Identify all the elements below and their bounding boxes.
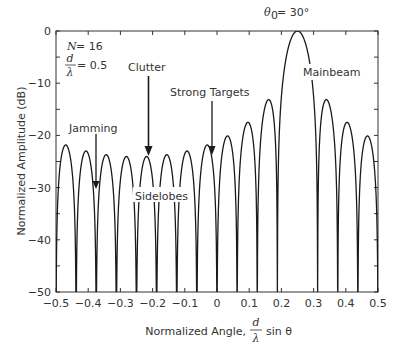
svg-text:d: d: [66, 52, 73, 65]
y-tick-label: −10: [28, 77, 51, 90]
array-params-annotation: N = 16 d λ = 0.5: [65, 40, 107, 79]
x-tick-label: 0.4: [337, 297, 355, 310]
mainbeam-annotation: Mainbeam: [300, 64, 360, 80]
y-axis-label: Normalized Amplitude (dB): [15, 87, 28, 236]
x-axis-label: Normalized Angle, d λ sin θ: [145, 316, 292, 345]
x-tick-label: 0: [214, 297, 221, 310]
svg-text:Mainbeam: Mainbeam: [303, 66, 360, 79]
x-tick-label: −0.3: [107, 297, 134, 310]
svg-text:Normalized Angle,: Normalized Angle,: [145, 325, 246, 338]
y-tick-label: 0: [44, 25, 51, 38]
x-tick-label: 0.3: [305, 297, 323, 310]
svg-text:= 0.5: = 0.5: [77, 59, 107, 72]
svg-text:sin θ: sin θ: [266, 325, 292, 338]
svg-text:Strong Targets: Strong Targets: [170, 86, 250, 99]
arrow-down-icon: [209, 146, 216, 155]
clutter-annotation: Clutter: [128, 61, 166, 156]
y-tick-label: −50: [28, 286, 51, 299]
svg-text:λ: λ: [252, 332, 260, 345]
svg-text:Sidelobes: Sidelobes: [135, 190, 188, 203]
x-tick-label: −0.4: [75, 297, 102, 310]
y-tick-label: −40: [28, 234, 51, 247]
array-pattern-chart: −0.5−0.4−0.3−0.2−0.100.10.20.30.40.5 0−1…: [0, 0, 404, 361]
y-tick-label: −20: [28, 129, 51, 142]
steer-angle-annotation: θ 0 = 30°: [264, 6, 309, 22]
svg-text:= 30°: = 30°: [277, 6, 309, 19]
svg-text:θ: θ: [264, 6, 271, 19]
svg-text:= 16: = 16: [76, 40, 103, 53]
arrow-down-icon: [145, 146, 153, 156]
x-tick-label: 0.5: [369, 297, 387, 310]
strong-targets-annotation: Strong Targets: [170, 86, 250, 155]
x-tick-label: 0.1: [240, 297, 258, 310]
sidelobes-annotation: Sidelobes: [133, 187, 188, 203]
x-tick-label: 0.2: [273, 297, 291, 310]
svg-text:Jamming: Jamming: [68, 122, 117, 135]
svg-text:d: d: [252, 316, 259, 329]
svg-text:Clutter: Clutter: [128, 61, 166, 74]
x-tick-label: −0.2: [139, 297, 166, 310]
x-tick-label: −0.1: [171, 297, 198, 310]
svg-text:λ: λ: [66, 66, 74, 79]
y-tick-label: −30: [28, 182, 51, 195]
